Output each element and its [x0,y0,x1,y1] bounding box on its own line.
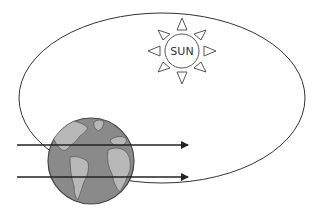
orbit-diagram: SUN [0,0,320,215]
sun-label: SUN [170,45,193,58]
sun-icon: SUN [148,18,216,84]
earth-icon [48,118,134,204]
